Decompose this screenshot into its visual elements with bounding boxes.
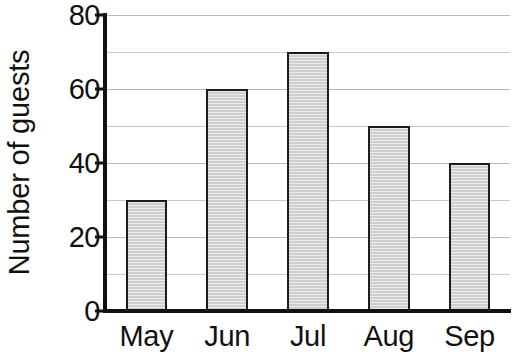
x-axis-line: [103, 309, 511, 313]
bar-aug: [368, 126, 410, 311]
bar-jun: [206, 89, 248, 311]
plot-area: [106, 15, 510, 311]
bar-jul: [287, 52, 329, 311]
bar-may: [126, 200, 168, 311]
x-axis-tick-label: Sep: [444, 318, 495, 354]
bar-series: [106, 15, 510, 311]
x-axis-tick-label: Jun: [204, 318, 250, 354]
x-axis-tick-label: May: [119, 318, 173, 354]
bar-chart: Number of guests 020406080 MayJunJulAugS…: [0, 0, 514, 363]
x-axis-tick-label: Aug: [363, 318, 414, 354]
y-axis-title: Number of guests: [0, 0, 40, 325]
y-axis-title-text: Number of guests: [6, 50, 35, 276]
y-axis-tick-mark: [95, 14, 105, 17]
x-axis-tick-labels: MayJunJulAugSep: [0, 318, 514, 363]
bar-sep: [449, 163, 491, 311]
y-axis-tick-mark: [95, 236, 105, 239]
x-axis-tick-label: Jul: [290, 318, 326, 354]
y-axis-tick-mark: [95, 310, 105, 313]
y-axis-tick-mark: [95, 162, 105, 165]
y-axis-tick-mark: [95, 88, 105, 91]
